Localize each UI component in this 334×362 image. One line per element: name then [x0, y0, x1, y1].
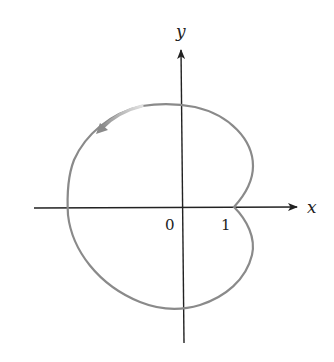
polar-curve: [68, 104, 253, 309]
polar-curve-figure: y x 0 1: [0, 0, 334, 362]
y-axis: [181, 50, 184, 343]
x-axis-label: x: [307, 197, 317, 217]
tick-label-1: 1: [221, 216, 231, 234]
direction-arrow: [102, 106, 142, 128]
x-axis: [34, 207, 297, 208]
y-axis-label: y: [175, 21, 186, 41]
origin-label: 0: [165, 216, 175, 234]
